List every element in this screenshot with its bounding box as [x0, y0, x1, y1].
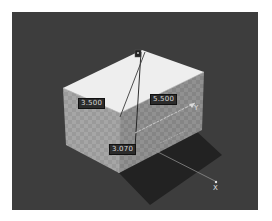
- pivot-dot: [137, 52, 139, 54]
- x-axis-label: X: [213, 184, 218, 192]
- height-dimension-label[interactable]: 3.070: [109, 144, 136, 155]
- y-axis-label: Y: [194, 104, 198, 112]
- box-scene[interactable]: [0, 0, 272, 221]
- x-axis-endpoint: [215, 181, 217, 183]
- depth-dimension-label[interactable]: 5.500: [150, 94, 177, 105]
- width-dimension-label[interactable]: 3.500: [78, 98, 105, 109]
